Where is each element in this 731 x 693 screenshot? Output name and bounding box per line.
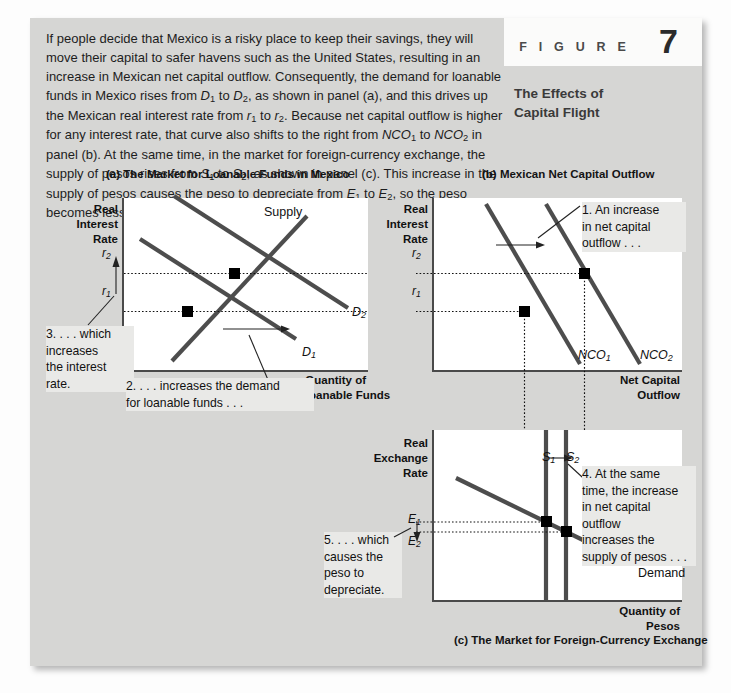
panel-a-y-axis-label: RealInterestRate — [72, 202, 118, 247]
panel-a-note-bottom: 2. . . . increases the demandfor loanabl… — [126, 378, 314, 411]
panel-a-curves — [124, 198, 368, 370]
interest-rate-increase-arrow-head — [113, 256, 120, 267]
panel-c-note-right: 4. At the sametime, the increasein net c… — [582, 466, 696, 566]
figure-title: The Effects ofCapital Flight — [514, 84, 682, 122]
panel-b-nco2-label: NCO2 — [640, 348, 673, 363]
panel-c-x-axis-label: Quantity ofPesos — [616, 604, 680, 634]
panel-a-equilibrium-2 — [229, 268, 240, 279]
panel-c-demand-label: Demand — [638, 566, 685, 580]
panel-c-s2-label: S2 — [566, 450, 579, 465]
panel-b-equilibrium-2 — [579, 268, 590, 279]
panel-b-equilibrium-1 — [519, 306, 530, 317]
figure-page: F I G U R E 7 The Effects ofCapital Flig… — [0, 0, 731, 693]
nco1-curve-line — [486, 204, 580, 364]
nco-shift-arrow-head — [536, 242, 545, 249]
panel-b-x-axis-label: Net CapitalOutflow — [616, 373, 680, 403]
intro-paragraph: If people decide that Mexico is a risky … — [46, 30, 508, 223]
panel-a-title: (a) The Market for Loanable Funds in Mex… — [106, 168, 349, 180]
panel-b-note: 1. An increasein net capitaloutflow . . … — [582, 202, 686, 252]
panel-a-d2-label: D2 — [352, 305, 366, 320]
panel-a-note3-leader — [88, 296, 114, 325]
panel-a-note-left: 3. . . . whichincreasesthe interestrate. — [46, 326, 134, 392]
panel-a-tick-r2: r2 — [102, 246, 111, 261]
panel-c-y-axis-label: RealExchangeRate — [366, 436, 428, 481]
panel-a-plot — [122, 198, 368, 372]
panel-a-supply-label: Supply — [264, 205, 302, 219]
panel-b-tick-r1: r1 — [412, 284, 421, 299]
figure-number: 7 — [659, 24, 678, 58]
panel-b-y-axis-label: RealInterestRate — [382, 202, 428, 247]
panel-c-title: (c) The Market for Foreign-Currency Exch… — [454, 634, 708, 646]
panel-b-title: (b) Mexican Net Capital Outflow — [482, 168, 655, 180]
figure-label-word: F I G U R E — [519, 40, 630, 54]
panel-c-equilibrium-2 — [561, 526, 572, 537]
panel-c-tick-e1: E1 — [408, 512, 421, 527]
panel-c-note-left: 5. . . . whichcauses thepeso todepreciat… — [324, 532, 402, 598]
panel-c-tick-e2: E2 — [408, 534, 421, 549]
panel-b-tick-r2: r2 — [412, 246, 421, 261]
panel-a-equilibrium-1 — [182, 306, 193, 317]
panel-b-nco1-label: NCO1 — [578, 348, 611, 363]
panel-c-s1-label: S1 — [542, 450, 555, 465]
panel-b-note-leader — [538, 206, 580, 238]
d2-curve-line — [174, 196, 348, 308]
panel-a-d1-label: D1 — [302, 345, 316, 360]
figure-card: F I G U R E 7 The Effects ofCapital Flig… — [30, 18, 702, 666]
panel-a-tick-r1: r1 — [102, 284, 111, 299]
panel-c-equilibrium-1 — [541, 516, 552, 527]
